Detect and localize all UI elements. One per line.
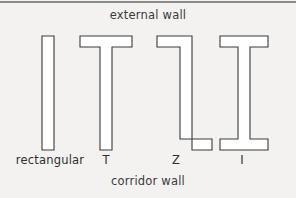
- wall-profile-diagram: external wall rectangular T Z I corridor…: [0, 0, 296, 198]
- shape-t: [80, 36, 132, 150]
- shape-label-z: Z: [156, 153, 196, 167]
- shape-label-t: T: [86, 153, 126, 167]
- shape-label-rectangular: rectangular: [5, 153, 95, 167]
- cross-section-shapes: [0, 0, 296, 198]
- shape-i: [220, 36, 268, 150]
- shape-label-i: I: [222, 153, 262, 167]
- corridor-wall-caption: corridor wall: [0, 174, 296, 188]
- shape-z: [157, 36, 212, 150]
- shape-rectangular: [42, 36, 54, 150]
